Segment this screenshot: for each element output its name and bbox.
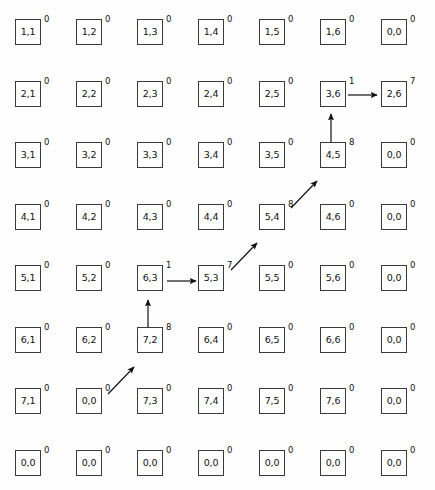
cell-box: 0,0 <box>259 450 285 476</box>
cell-box: 5,2 <box>76 265 102 291</box>
cell-superscript: 0 <box>410 323 415 332</box>
cell-label: 0,0 <box>82 458 97 468</box>
cell-label: 6,5 <box>265 335 280 345</box>
cell-box: 5,1 <box>15 265 41 291</box>
cell-box: 6,2 <box>76 327 102 353</box>
cell-superscript: 0 <box>105 77 110 86</box>
cell-label: 7,3 <box>143 396 158 406</box>
cell-label: 5,1 <box>21 273 36 283</box>
cell-box: 6,5 <box>259 327 285 353</box>
cell-label: 2,3 <box>143 89 158 99</box>
cell-label: 7,4 <box>204 396 219 406</box>
cell-box: 0,0 <box>320 450 346 476</box>
cell-label: 2,2 <box>82 89 97 99</box>
cell-superscript: 0 <box>166 446 171 455</box>
cell-label: 0,0 <box>265 458 280 468</box>
cell-box: 2,3 <box>137 81 163 107</box>
cell-box: 1,1 <box>15 19 41 45</box>
cell-superscript: 0 <box>44 200 49 209</box>
cell-box: 0,0 <box>381 142 407 168</box>
cell-superscript: 0 <box>288 261 293 270</box>
cell-superscript: 0 <box>44 323 49 332</box>
cell-box: 5,5 <box>259 265 285 291</box>
cell-box: 2,5 <box>259 81 285 107</box>
cell-box: 7,1 <box>15 388 41 414</box>
cell-label: 0,0 <box>143 458 158 468</box>
cell-box: 0,0 <box>381 265 407 291</box>
cell-label: 2,4 <box>204 89 219 99</box>
cell-label: 2,1 <box>21 89 36 99</box>
cell-label: 1,1 <box>21 27 36 37</box>
cell-superscript: 0 <box>44 384 49 393</box>
cell-superscript: 0 <box>227 138 232 147</box>
cell-box: 5,4 <box>259 204 285 230</box>
cell-box: 0,0 <box>15 450 41 476</box>
cell-superscript: 8 <box>288 200 293 209</box>
cell-label: 5,4 <box>265 212 280 222</box>
cell-box: 3,6 <box>320 81 346 107</box>
cell-superscript: 0 <box>166 384 171 393</box>
cell-superscript: 0 <box>227 77 232 86</box>
cell-superscript: 0 <box>288 446 293 455</box>
cell-superscript: 0 <box>410 138 415 147</box>
cell-superscript: 0 <box>227 446 232 455</box>
cell-superscript: 0 <box>349 261 354 270</box>
cell-label: 1,2 <box>82 27 97 37</box>
cell-label: 0,0 <box>387 335 402 345</box>
cell-superscript: 0 <box>349 200 354 209</box>
cell-box: 5,3 <box>198 265 224 291</box>
cell-superscript: 0 <box>105 446 110 455</box>
cell-label: 1,4 <box>204 27 219 37</box>
cell-box: 7,3 <box>137 388 163 414</box>
cell-superscript: 0 <box>44 15 49 24</box>
cell-label: 0,0 <box>387 396 402 406</box>
cell-label: 5,6 <box>326 273 341 283</box>
cell-label: 7,6 <box>326 396 341 406</box>
arrow-layer <box>0 0 435 490</box>
cell-label: 4,6 <box>326 212 341 222</box>
cell-label: 5,2 <box>82 273 97 283</box>
cell-box: 4,5 <box>320 142 346 168</box>
cell-superscript: 0 <box>410 384 415 393</box>
arrow-54-to-45 <box>291 181 317 208</box>
cell-superscript: 0 <box>410 261 415 270</box>
cell-superscript: 0 <box>410 15 415 24</box>
cell-superscript: 0 <box>349 15 354 24</box>
cell-box: 7,4 <box>198 388 224 414</box>
cell-superscript: 7 <box>410 77 415 86</box>
cell-box: 0,0 <box>137 450 163 476</box>
cell-box: 4,6 <box>320 204 346 230</box>
cell-superscript: 0 <box>166 138 171 147</box>
cell-box: 0,0 <box>381 204 407 230</box>
cell-label: 5,3 <box>204 273 219 283</box>
cell-superscript: 0 <box>105 200 110 209</box>
cell-box: 3,3 <box>137 142 163 168</box>
cell-label: 0,0 <box>387 273 402 283</box>
cell-superscript: 0 <box>44 77 49 86</box>
cell-label: 0,0 <box>326 458 341 468</box>
cell-box: 0,0 <box>76 388 102 414</box>
cell-superscript: 0 <box>349 384 354 393</box>
cell-label: 1,6 <box>326 27 341 37</box>
cell-box: 0,0 <box>381 327 407 353</box>
cell-label: 6,3 <box>143 273 158 283</box>
cell-label: 0,0 <box>82 396 97 406</box>
cell-box: 1,2 <box>76 19 102 45</box>
cell-superscript: 8 <box>166 323 171 332</box>
cell-superscript: 0 <box>288 15 293 24</box>
cell-label: 4,5 <box>326 150 341 160</box>
cell-box: 3,4 <box>198 142 224 168</box>
cell-box: 2,1 <box>15 81 41 107</box>
arrow-53-to-54 <box>231 243 257 270</box>
cell-box: 0,0 <box>198 450 224 476</box>
cell-box: 7,5 <box>259 388 285 414</box>
cell-superscript: 0 <box>288 138 293 147</box>
cell-superscript: 0 <box>44 446 49 455</box>
cell-box: 7,6 <box>320 388 346 414</box>
cell-label: 3,3 <box>143 150 158 160</box>
cell-label: 7,1 <box>21 396 36 406</box>
cell-label: 6,6 <box>326 335 341 345</box>
cell-label: 0,0 <box>204 458 219 468</box>
cell-superscript: 0 <box>105 138 110 147</box>
cell-label: 5,5 <box>265 273 280 283</box>
